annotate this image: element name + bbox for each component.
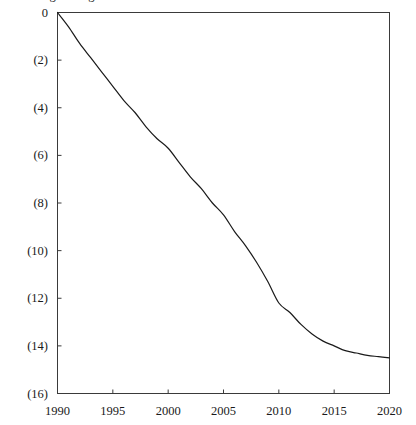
x-tick-label: 2000 <box>156 405 181 418</box>
y-tick-label: 0 <box>0 6 48 19</box>
data-line-series-1 <box>58 13 390 358</box>
x-axis-tick-marks <box>58 390 390 394</box>
y-tick-label: (10) <box>0 244 48 257</box>
x-tick-label: 2020 <box>377 405 402 418</box>
chart-container: Average change 0(2)(4)(6)(8)(10)(12)(14)… <box>0 0 416 425</box>
y-axis-tick-marks <box>58 13 62 394</box>
chart-plot-area <box>0 0 416 425</box>
x-tick-label: 2015 <box>322 405 347 418</box>
axis-frame <box>58 13 390 394</box>
y-tick-label: (8) <box>0 197 48 210</box>
y-tick-label: (14) <box>0 340 48 353</box>
x-tick-label: 1990 <box>45 405 70 418</box>
y-tick-label: (6) <box>0 149 48 162</box>
x-tick-label: 2010 <box>266 405 291 418</box>
y-tick-label: (4) <box>0 102 48 115</box>
x-tick-label: 1995 <box>100 405 125 418</box>
y-tick-label: (16) <box>0 387 48 400</box>
y-tick-label: (2) <box>0 54 48 67</box>
y-tick-label: (12) <box>0 292 48 305</box>
x-tick-label: 2005 <box>211 405 236 418</box>
